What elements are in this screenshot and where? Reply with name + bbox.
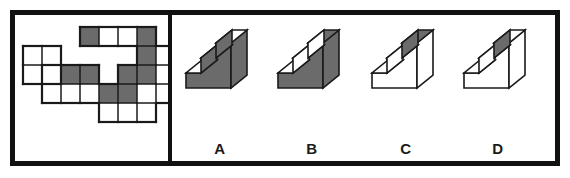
option-c-label: C	[358, 140, 454, 157]
left-panel	[15, 15, 168, 161]
option-a[interactable]: A	[172, 15, 268, 161]
option-b[interactable]: B	[264, 15, 360, 161]
option-d-label: D	[450, 140, 546, 157]
stepped-block-icon	[264, 21, 360, 131]
option-d-shape	[450, 21, 546, 131]
option-b-label: B	[264, 140, 360, 157]
option-a-shape	[172, 21, 268, 131]
option-a-label: A	[172, 140, 268, 157]
stepped-block-icon	[450, 21, 546, 131]
stepped-block-icon	[358, 21, 454, 131]
unfolded-net-diagram	[15, 15, 168, 161]
option-c[interactable]: C	[358, 15, 454, 161]
right-panel: A B C D	[172, 15, 555, 161]
option-d[interactable]: D	[450, 15, 546, 161]
option-b-shape	[264, 21, 360, 131]
stepped-block-icon	[172, 21, 268, 131]
option-c-shape	[358, 21, 454, 131]
spatial-reasoning-figure: A B C D	[0, 0, 570, 178]
